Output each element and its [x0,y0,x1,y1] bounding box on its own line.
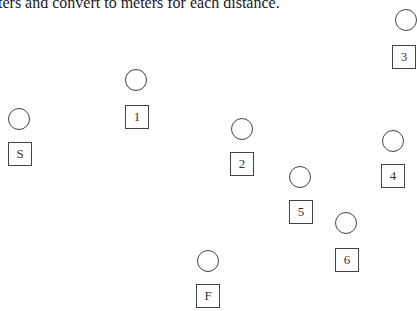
station-label-box: 1 [125,105,149,129]
station-label-box: F [196,284,220,308]
station-circle [395,9,417,31]
station-circle [335,212,357,234]
station-circle [289,166,311,188]
station-circle [382,130,404,152]
station-label-box: 6 [335,248,359,272]
station-label-box: 3 [392,45,416,69]
station-circle [231,118,253,140]
station-label-box: S [8,142,32,166]
station-label-box: 2 [230,152,254,176]
station-circle [8,108,30,130]
station-circle [125,69,147,91]
station-label-box: 5 [289,200,313,224]
instruction-text: ters and convert to meters for each dist… [0,0,280,12]
station-circle [197,250,219,272]
station-label-box: 4 [381,164,405,188]
